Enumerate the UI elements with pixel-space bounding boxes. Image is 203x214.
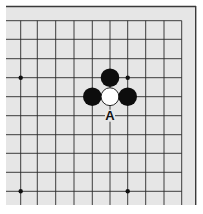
point-label-a: A bbox=[105, 108, 115, 123]
board-surface bbox=[6, 6, 196, 205]
star-point bbox=[19, 189, 23, 193]
star-point bbox=[126, 189, 130, 193]
black-stone[interactable] bbox=[83, 87, 102, 106]
star-point bbox=[19, 76, 23, 80]
go-board: A bbox=[0, 0, 203, 214]
star-point bbox=[126, 76, 130, 80]
white-stone[interactable] bbox=[101, 88, 119, 106]
black-stone[interactable] bbox=[118, 87, 137, 106]
black-stone[interactable] bbox=[101, 68, 120, 87]
